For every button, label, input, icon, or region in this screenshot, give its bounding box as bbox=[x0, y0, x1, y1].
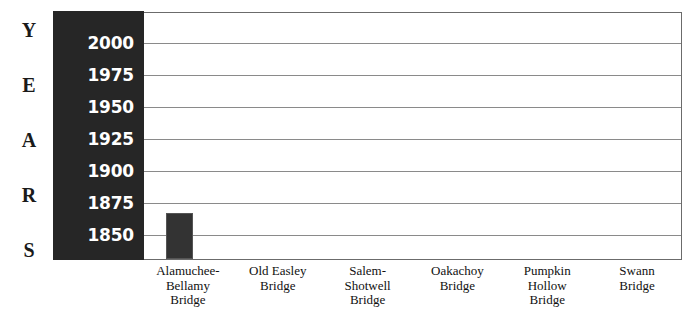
y-axis-title-letter: Y bbox=[22, 20, 36, 40]
x-axis-category-label: Salem- Shotwell Bridge bbox=[323, 262, 413, 318]
plot-area bbox=[143, 12, 682, 260]
y-axis-tick-label: 1850 bbox=[60, 227, 134, 244]
y-axis-title: Y E A R S bbox=[8, 20, 50, 260]
y-axis-tick-label: 1875 bbox=[60, 195, 134, 212]
x-axis-category-label: Pumpkin Hollow Bridge bbox=[502, 262, 592, 318]
x-axis-category-label: Swann Bridge bbox=[592, 262, 682, 318]
y-axis-tick-label: 1975 bbox=[60, 67, 134, 84]
y-axis-tick-label: 1925 bbox=[60, 131, 134, 148]
gridline bbox=[144, 107, 681, 108]
y-axis-title-letter: R bbox=[22, 185, 36, 205]
x-axis-category-line: Bellamy bbox=[143, 279, 233, 294]
gridline bbox=[144, 171, 681, 172]
x-axis-category-label: Old Easley Bridge bbox=[233, 262, 323, 318]
gridline bbox=[144, 235, 681, 236]
x-axis-category-line: Bridge bbox=[412, 279, 502, 294]
bar-chart: Y E A R S 2000 1975 1950 1925 1900 1875 … bbox=[0, 0, 694, 320]
x-axis-category-label: Alamuchee- Bellamy Bridge bbox=[143, 262, 233, 318]
x-axis-category-line: Shotwell bbox=[323, 279, 413, 294]
x-axis-category-line: Swann bbox=[592, 264, 682, 279]
x-axis-category-line: Bridge bbox=[502, 293, 592, 308]
x-axis-category-line: Bridge bbox=[323, 293, 413, 308]
y-axis-title-letter: A bbox=[22, 130, 36, 150]
y-axis-title-letter: S bbox=[23, 240, 34, 260]
x-axis-category-line: Oakachoy bbox=[412, 264, 502, 279]
x-axis-category-line: Old Easley bbox=[233, 264, 323, 279]
x-axis-category-label: Oakachoy Bridge bbox=[412, 262, 502, 318]
x-axis-category-line: Pumpkin bbox=[502, 264, 592, 279]
gridline bbox=[144, 203, 681, 204]
y-axis-tick-panel: 2000 1975 1950 1925 1900 1875 1850 bbox=[53, 11, 144, 260]
y-axis-tick-label: 1950 bbox=[60, 99, 134, 116]
x-axis-category-line: Alamuchee- bbox=[143, 264, 233, 279]
x-axis-category-line: Hollow bbox=[502, 279, 592, 294]
x-axis-category-line: Salem- bbox=[323, 264, 413, 279]
y-axis-tick-label: 2000 bbox=[60, 35, 134, 52]
y-axis-tick-label: 1900 bbox=[60, 163, 134, 180]
y-axis-title-letter: E bbox=[22, 75, 35, 95]
x-axis-category-line: Bridge bbox=[143, 293, 233, 308]
gridline bbox=[144, 139, 681, 140]
x-axis-labels: Alamuchee- Bellamy Bridge Old Easley Bri… bbox=[143, 262, 682, 318]
x-axis-category-line: Bridge bbox=[233, 279, 323, 294]
gridline bbox=[144, 43, 681, 44]
x-axis-category-line: Bridge bbox=[592, 279, 682, 294]
gridline bbox=[144, 75, 681, 76]
